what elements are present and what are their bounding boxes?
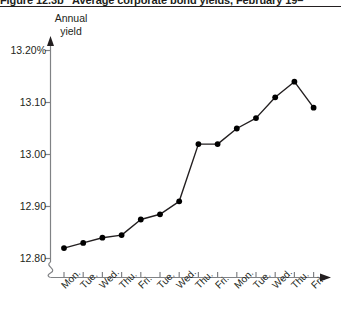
y-axis-tick-label: 13.00 [0,148,46,160]
y-axis-tick-label: 13.20% [0,44,46,56]
data-point [100,235,106,241]
data-point [80,240,86,246]
data-line [64,82,314,248]
y-axis-arrow [47,36,54,46]
chart-axes [47,36,331,282]
data-point [215,141,221,147]
data-point [196,141,202,147]
data-point [157,211,163,217]
data-point [311,105,317,111]
data-point [234,126,240,132]
y-axis-tick-label: 13.10 [0,96,46,108]
data-point [119,232,125,238]
data-point [272,94,278,100]
data-markers [61,79,316,251]
y-axis-tick-label: 12.90 [0,200,46,212]
axis-break-symbol [48,262,53,278]
data-point [138,217,144,223]
data-point [61,245,67,251]
data-point [253,115,259,121]
y-axis-tick-label: 12.80 [0,252,46,264]
data-point [292,79,298,85]
data-point [176,198,182,204]
